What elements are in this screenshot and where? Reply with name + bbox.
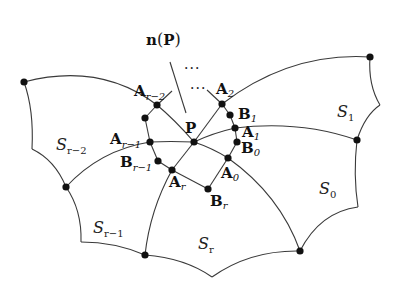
ellipsis-top: ··· [184, 60, 200, 76]
vertex-B-1 [226, 111, 233, 118]
edge-left-cusp-lower [32, 149, 66, 187]
edge-bottom-cusp-right [300, 207, 358, 251]
vertex-A-r-1 [146, 138, 153, 145]
edge-right-top-cusp [370, 57, 380, 105]
label-A-2: A2 [215, 80, 234, 99]
vertex-A-0 [224, 154, 231, 161]
vertex-B-0 [233, 138, 240, 145]
edge-bottom-left [81, 242, 145, 255]
edge-left-upper [24, 82, 32, 149]
spoke-P-Ar-1 [150, 142, 194, 143]
edge-bottom-mid [145, 255, 212, 277]
vertex-outer-top-left [20, 78, 27, 85]
ellipsis-mid: ··· [190, 80, 206, 96]
edge-Bq-Ar-1 [145, 118, 150, 142]
region-S-r-1: Sr−1 [93, 218, 124, 239]
vertex-A-r-2 [153, 101, 160, 108]
edge-left-lower [66, 187, 81, 242]
label-B-1: B1 [238, 105, 257, 124]
normal-label: n(P) [146, 30, 181, 49]
region-S-0: S0 [319, 179, 336, 200]
edge-right-upper [357, 105, 380, 140]
label-B-r: Br [210, 192, 229, 211]
spoke-P-A0 [194, 142, 228, 158]
label-P: P [185, 119, 196, 137]
edge-Ar-to-bottom [145, 170, 172, 255]
edge-bottom-right [212, 251, 300, 277]
labels: n(P) ··· ··· P Ar−2 Ar−1 Br−1 Ar Br A0 B… [56, 30, 354, 255]
vertex-A-1 [231, 124, 238, 131]
label-B-r-1: Br−1 [120, 153, 152, 173]
vertex-outer-top-right [366, 53, 373, 60]
vertex-outer-bottom-left [141, 251, 148, 258]
region-S-1: S1 [337, 102, 354, 123]
vertex-B-r-1 [154, 157, 161, 164]
edge-right-lower [355, 140, 358, 207]
vertex-B-r-2 [141, 114, 148, 121]
label-A-0: A0 [220, 164, 240, 183]
region-S-r-2: Sr−2 [56, 135, 87, 156]
surface-patch-diagram: n(P) ··· ··· P Ar−2 Ar−1 Br−1 Ar Br A0 B… [0, 0, 393, 293]
region-S-r: Sr [198, 234, 214, 255]
edge-top-right [222, 57, 370, 104]
vertex-A-2 [218, 100, 225, 107]
vertex-P [190, 138, 197, 145]
spoke-P-Ar [172, 142, 194, 170]
label-A-r-2: Ar−2 [133, 82, 165, 102]
vertex-outer-left [62, 183, 69, 190]
vertex-outer-right [353, 136, 360, 143]
vertex-outer-bottom-right [296, 247, 303, 254]
spoke-P-A1 [194, 128, 235, 142]
label-A-r-1: Ar−1 [109, 130, 141, 150]
